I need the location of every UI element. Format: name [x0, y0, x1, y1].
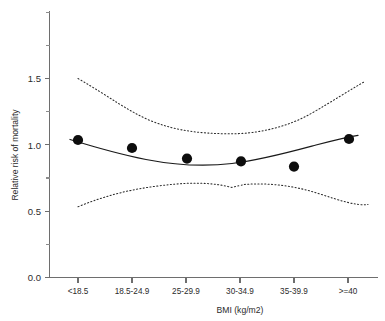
chart-figure: 1.5 1.0 0.5 0.0 <18.5 18.5-24.9 25-29.9 …	[0, 0, 385, 321]
x-tick-label-5: >=40	[339, 287, 358, 296]
x-axis-title: BMI (kg/m2)	[217, 305, 264, 315]
data-point-2	[182, 154, 192, 164]
x-tick-label-2: 25-29.9	[172, 287, 200, 296]
y-tick-label-4: 0.0	[28, 272, 41, 283]
y-tick-label-3: 0.5	[28, 206, 41, 217]
y-tick-label-1: 1.5	[28, 73, 41, 84]
x-tick-label-1: 18.5-24.9	[115, 287, 150, 296]
x-tick-label-0: <18.5	[68, 287, 89, 296]
x-tick-label-3: 30-34.9	[226, 287, 254, 296]
chart-background	[0, 0, 385, 321]
data-point-3	[236, 156, 246, 166]
data-point-0	[73, 135, 83, 145]
x-tick-label-4: 35-39.9	[280, 287, 308, 296]
y-axis-title: Relative risk of mortality	[10, 109, 20, 201]
y-tick-label-2: 1.0	[28, 140, 41, 151]
relative-risk-bmi-chart: 1.5 1.0 0.5 0.0 <18.5 18.5-24.9 25-29.9 …	[0, 0, 385, 321]
data-point-5	[344, 134, 354, 144]
data-point-1	[127, 143, 137, 153]
data-point-4	[289, 162, 299, 172]
